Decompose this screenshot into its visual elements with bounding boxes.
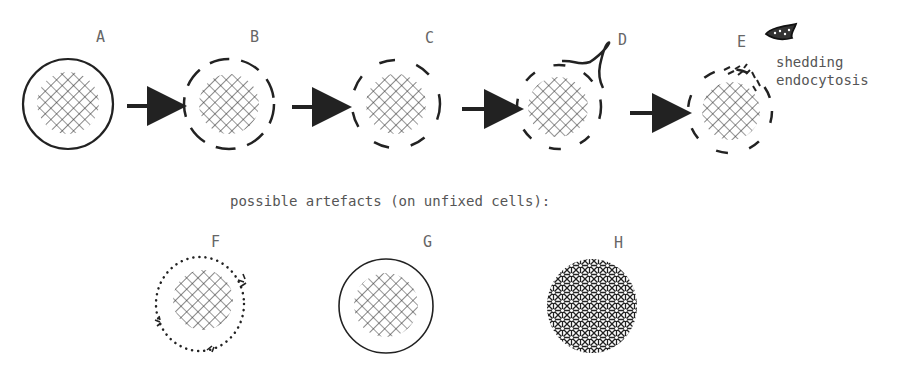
cell-stage-e: E shedding endocytosis	[688, 24, 869, 153]
artefact-f: F	[155, 233, 246, 352]
cell-diagram: A B C D E	[0, 0, 905, 366]
nucleus-hatched	[528, 77, 588, 137]
cell-stage-a: A	[23, 28, 113, 149]
artefacts-caption: possible artefacts (on unfixed cells):	[230, 193, 550, 209]
label-f: F	[211, 233, 220, 251]
cell-stage-c: C	[352, 29, 440, 148]
label-d: D	[618, 31, 627, 49]
annotation-endocytosis: endocytosis	[776, 72, 869, 88]
nucleus-hatched	[37, 72, 99, 134]
artefact-g: G	[339, 233, 433, 353]
cell-stage-b: B	[184, 28, 274, 149]
label-g: G	[423, 233, 432, 251]
nucleus-hatched	[173, 270, 233, 330]
nucleus-hatched	[366, 74, 426, 134]
annotation-shedding: shedding	[776, 54, 843, 70]
label-c: C	[425, 29, 434, 47]
nucleus-hatched	[702, 82, 760, 140]
label-a: A	[96, 28, 105, 46]
cell-dense-hatch	[547, 259, 637, 353]
label-e: E	[737, 33, 746, 51]
artefact-h: H	[547, 234, 637, 353]
nucleus-hatched	[354, 273, 418, 337]
cell-stage-d: D	[517, 31, 627, 149]
label-h: H	[614, 234, 623, 252]
nucleus-hatched	[199, 74, 259, 134]
label-b: B	[250, 28, 259, 46]
